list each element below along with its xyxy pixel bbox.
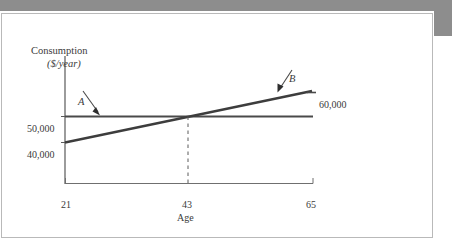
series-label-A: A — [78, 97, 84, 108]
figure-frame: Consumption ($/year) 50,000 40,000 60,00… — [1, 13, 433, 238]
top-gray-band — [0, 0, 434, 11]
y-tick-label-50000: 50,000 — [27, 124, 55, 134]
right-gray-band — [434, 0, 452, 36]
figure-page: Consumption ($/year) 50,000 40,000 60,00… — [0, 0, 453, 245]
y-axis-title-line1: Consumption — [31, 46, 88, 57]
x-axis-title: Age — [177, 213, 194, 223]
x-tick-label-65: 65 — [306, 200, 316, 210]
x-tick-label-43: 43 — [182, 200, 192, 210]
end-value-label-60000: 60,000 — [319, 100, 347, 110]
callout-arrow-A — [83, 91, 100, 116]
y-axis-title-line2: ($/year) — [47, 59, 81, 70]
series-label-B: B — [289, 74, 295, 85]
y-tick-label-40000: 40,000 — [27, 150, 55, 160]
x-tick-label-21: 21 — [61, 200, 71, 210]
